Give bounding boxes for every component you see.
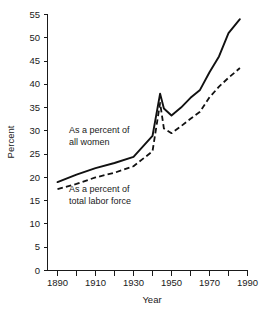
y-tick-label: 15	[29, 195, 40, 206]
x-axis-ticks	[58, 271, 248, 276]
annotation-total-labor-force-line1: As a percent of	[69, 184, 130, 194]
series-line-all-women	[58, 19, 240, 182]
y-axis-tick-labels: 0 5 10 15 20 25 30 35 40 45 50 55	[29, 9, 40, 276]
y-tick-label: 45	[29, 55, 40, 66]
x-axis-tick-labels: 1890 1910 1930 1950 1970 1990	[47, 277, 258, 288]
y-tick-label: 40	[29, 78, 40, 89]
y-axis-title: Percent	[5, 125, 16, 158]
x-tick-label: 1910	[85, 277, 106, 288]
annotation-total-labor-force: As a percent of total labor force	[69, 184, 131, 206]
y-tick-label: 35	[29, 102, 40, 113]
line-chart: 0 5 10 15 20 25 30 35 40 45 50 55	[0, 0, 265, 309]
y-tick-label: 10	[29, 218, 40, 229]
annotation-total-labor-force-line2: total labor force	[69, 196, 131, 206]
annotation-all-women: As a percent of all women	[69, 125, 130, 147]
x-tick-label: 1990	[237, 277, 258, 288]
x-tick-label: 1930	[123, 277, 144, 288]
y-tick-label: 30	[29, 125, 40, 136]
y-tick-label: 5	[35, 241, 40, 252]
chart-container: 0 5 10 15 20 25 30 35 40 45 50 55	[0, 0, 265, 309]
y-tick-label: 25	[29, 148, 40, 159]
x-tick-label: 1970	[199, 277, 220, 288]
y-tick-label: 55	[29, 9, 40, 20]
annotation-all-women-line1: As a percent of	[69, 125, 130, 135]
x-tick-label: 1950	[161, 277, 182, 288]
y-tick-label: 50	[29, 32, 40, 43]
x-tick-label: 1890	[47, 277, 68, 288]
y-axis-ticks	[44, 15, 48, 271]
annotation-all-women-line2: all women	[69, 137, 110, 147]
y-tick-label: 20	[29, 172, 40, 183]
x-axis-title: Year	[142, 294, 161, 305]
y-tick-label: 0	[35, 265, 40, 276]
